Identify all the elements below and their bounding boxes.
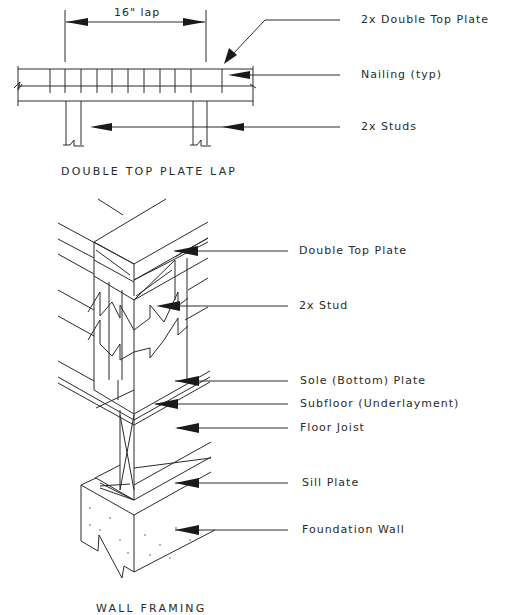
lap-dimension-label: 16" lap	[114, 7, 160, 18]
caption-double-top-plate-lap: DOUBLE TOP PLATE LAP	[61, 166, 237, 177]
callout-sole-plate: Sole (Bottom) Plate	[300, 375, 426, 386]
callout-foundation-wall: Foundation Wall	[302, 524, 405, 535]
callout-double-top-plate: 2x Double Top Plate	[361, 14, 489, 25]
callout-sill-plate: Sill Plate	[302, 477, 359, 488]
callout-studs: 2x Studs	[361, 121, 417, 132]
callout-nailing: Nailing (typ)	[361, 69, 442, 80]
callout-wall-double-top-plate: Double Top Plate	[299, 245, 407, 256]
caption-wall-framing: WALL FRAMING	[96, 603, 207, 614]
top-plate-lap-drawing	[14, 10, 340, 146]
callout-stud: 2x Stud	[299, 300, 348, 311]
wall-framing-drawing	[58, 199, 288, 578]
callout-subfloor: Subfloor (Underlayment)	[300, 398, 459, 409]
callout-floor-joist: Floor Joist	[300, 422, 365, 433]
